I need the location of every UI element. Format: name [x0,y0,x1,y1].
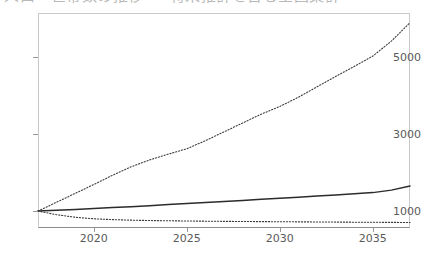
x-tick-mark [94,228,95,232]
x-tick-label: 2025 [162,232,212,245]
x-tick-label: 2035 [348,232,398,245]
x-tick-mark [187,228,188,232]
x-axis: 2020202520302035 [0,0,421,257]
x-tick-label: 2020 [69,232,119,245]
x-tick-mark [373,228,374,232]
x-tick-label: 2030 [255,232,305,245]
chart-figure: 人口・世帯数の推移 ― 将来推計を含む全国集計 100030005000 202… [0,0,421,257]
x-tick-mark [280,228,281,232]
